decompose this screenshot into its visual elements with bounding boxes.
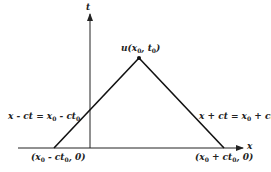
x-axis-label: x	[247, 142, 252, 151]
apex-point	[137, 56, 141, 60]
t-axis-label: t	[86, 3, 90, 12]
left-characteristic-equation: x - ct = x0 - ct0	[8, 112, 80, 122]
right-characteristic-equation: x + ct = x0 + ct0	[199, 112, 271, 122]
apex-label: u(x0, t0)	[121, 44, 160, 54]
domain-of-dependence-diagram	[0, 0, 271, 172]
right-characteristic-line	[139, 58, 224, 148]
left-base-point-label: (x0 - ct0, 0)	[31, 153, 85, 163]
right-base-point-label: (x0 + ct0, 0)	[195, 153, 253, 163]
left-characteristic-line	[54, 58, 139, 148]
